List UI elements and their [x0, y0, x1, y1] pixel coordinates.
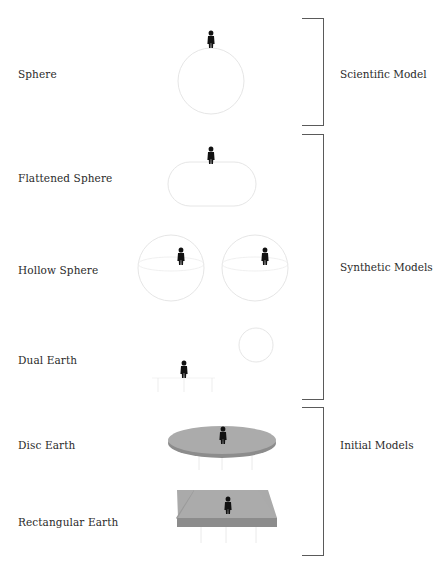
row-label-hollow-sphere: Hollow Sphere	[18, 264, 98, 276]
row-label-rectangular-earth: Rectangular Earth	[18, 516, 118, 528]
row-label-sphere: Sphere	[18, 68, 57, 80]
dual-earth-illustration	[152, 328, 273, 392]
person-icon	[177, 247, 184, 265]
group-label-synthetic: Synthetic Models	[340, 261, 433, 273]
person-icon	[261, 247, 268, 265]
earth-models-illustrations	[0, 0, 444, 571]
hollow-sphere-illustration-left	[138, 235, 204, 301]
row-label-flattened-sphere: Flattened Sphere	[18, 172, 112, 184]
sphere-illustration	[178, 30, 244, 114]
disc-earth-illustration	[168, 426, 276, 470]
bracket-synthetic	[302, 134, 324, 400]
person-icon	[180, 360, 187, 378]
person-icon	[207, 30, 214, 48]
row-label-dual-earth: Dual Earth	[18, 354, 77, 366]
person-icon	[207, 146, 214, 164]
group-label-scientific: Scientific Model	[340, 68, 427, 80]
bracket-initial	[302, 407, 324, 556]
group-label-initial: Initial Models	[340, 439, 414, 451]
row-label-disc-earth: Disc Earth	[18, 439, 75, 451]
hollow-sphere-illustration-right	[222, 235, 288, 301]
flattened-sphere-illustration	[168, 146, 256, 206]
rectangular-earth-illustration	[176, 490, 277, 543]
bracket-scientific	[302, 18, 324, 126]
